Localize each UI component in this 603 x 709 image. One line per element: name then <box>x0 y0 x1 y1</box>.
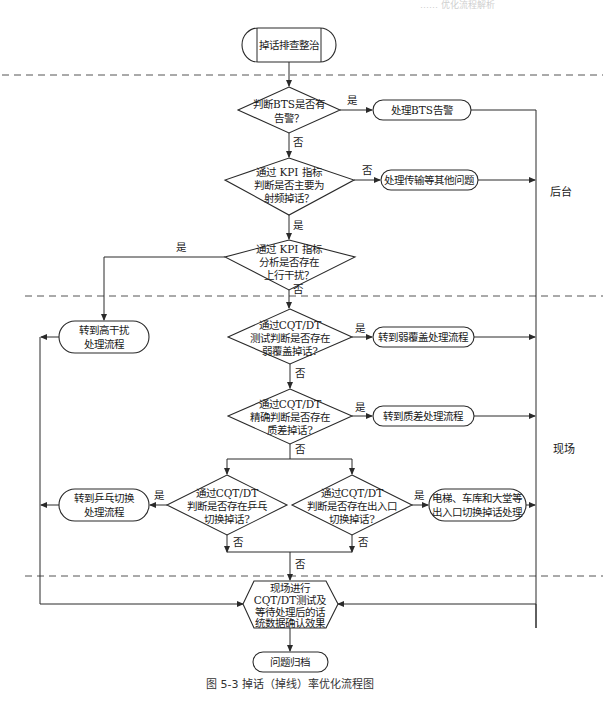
decision-kpi-ul-line1: 通过 KPI 指标 <box>256 243 323 255</box>
process-transport-label: 处理传输等其他问题 <box>384 174 475 186</box>
edge-label-no: 否 <box>362 164 373 176</box>
edge-label-no: 否 <box>295 443 306 455</box>
process-pingpong-handover: 转到乒乓切换 处理流程 <box>59 489 149 521</box>
start-node: 掉话排查整治 <box>242 28 336 62</box>
decision-entrance-line2: 判断是否存在出入口 <box>307 500 397 512</box>
edge-label-yes: 是 <box>154 489 165 501</box>
verify-line2: CQT/DT测试及 <box>254 594 328 606</box>
zone-label-backend: 后台 <box>550 185 572 199</box>
edge-label-no: 否 <box>295 558 306 570</box>
page-header-faint: …… 优化流程解析 <box>420 0 495 10</box>
start-label: 掉话排查整治 <box>259 39 319 51</box>
decision-kpi-rf-line1: 通过 KPI 指标 <box>256 166 323 178</box>
process-bts-alarm: 处理BTS告警 <box>373 100 471 120</box>
decision-pingpong-line2: 判断是否存在乒乓 <box>187 500 267 512</box>
process-high-interf-line1: 转到高干扰 <box>79 324 130 336</box>
decision-quality-line3: 质差掉话? <box>267 424 313 436</box>
edge-label-no: 否 <box>293 136 304 148</box>
decision-entrance-line1: 通过CQT/DT <box>321 487 384 499</box>
figure-caption: 图 5-3 掉话（掉线）率优化流程图 <box>206 677 374 691</box>
edge-label-no: 否 <box>358 536 369 548</box>
process-high-interference: 转到高干扰 处理流程 <box>59 321 149 353</box>
decision-kpi-uplink-interference: 通过 KPI 指标 分析是否存在 上行干扰？ <box>225 240 355 290</box>
decision-weak-cov-line1: 通过CQT/DT <box>259 319 322 331</box>
decision-entrance-line3: 切换掉话? <box>329 513 375 525</box>
decision-pingpong-line1: 通过CQT/DT <box>196 487 259 499</box>
decision-weak-cov-line2: 测试判断是否存在 <box>250 332 330 344</box>
zone-label-field: 现场 <box>553 442 575 456</box>
edge-label-no: 否 <box>233 536 244 548</box>
decision-entrance-handover: 通过CQT/DT 判断是否存在出入口 切换掉话? <box>292 475 412 535</box>
process-poor-quality: 转到质差处理流程 <box>373 406 474 426</box>
verify-line1: 现场进行 <box>270 582 311 594</box>
process-pingpong-line2: 处理流程 <box>84 506 125 518</box>
decision-pingpong-handover: 通过CQT/DT 判断是否存在乒乓 切换掉话? <box>167 475 287 535</box>
edge-label-yes: 是 <box>176 241 187 253</box>
process-field-verification: 现场进行 CQT/DT测试及 等待处理后的话 统数据确认效果 <box>243 581 338 629</box>
process-entrance-line1: 电梯、车库和大堂等 <box>432 492 523 504</box>
edge-label-yes: 是 <box>355 322 366 334</box>
process-weak-coverage: 转到弱覆盖处理流程 <box>373 327 474 347</box>
decision-bts-alarm: 判断BTS是否有 告警？ <box>238 87 340 133</box>
edge-label-no: 否 <box>293 283 304 295</box>
decision-kpi-ul-line3: 上行干扰？ <box>264 269 314 281</box>
edge-label-yes: 是 <box>414 489 425 501</box>
decision-kpi-rf-drop: 通过 KPI 指标 判断是否主要为 射频掉话？ <box>225 158 354 215</box>
flowchart-canvas: …… 优化流程解析 后台 现场 掉话排查整治 判断BTS是否有 告警？ 是 处理… <box>0 0 603 709</box>
edge-label-yes: 是 <box>355 401 366 413</box>
decision-kpi-rf-line3: 射频掉话？ <box>264 192 314 204</box>
end-node: 问题归档 <box>253 652 328 672</box>
decision-poor-quality: 通过CQT/DT 精确判断是否存在 质差掉话? <box>228 389 352 444</box>
decision-quality-line1: 通过CQT/DT <box>259 398 322 410</box>
verify-line4: 统数据确认效果 <box>255 617 326 629</box>
decision-kpi-ul-line2: 分析是否存在 <box>259 256 319 268</box>
end-label: 问题归档 <box>270 656 310 668</box>
decision-quality-line2: 精确判断是否存在 <box>250 411 330 423</box>
edge-label-yes: 是 <box>293 219 304 231</box>
process-quality-label: 转到质差处理流程 <box>383 410 464 422</box>
process-weak-cov-label: 转到弱覆盖处理流程 <box>378 331 469 343</box>
process-entrance-handover: 电梯、车库和大堂等 出入口切换掉话处理 <box>429 489 526 521</box>
decision-weak-coverage: 通过CQT/DT 测试判断是否存在 弱覆盖掉话? <box>228 309 352 364</box>
process-entrance-line2: 出入口切换掉话处理 <box>432 506 523 518</box>
edge-label-no: 否 <box>295 367 306 379</box>
decision-weak-cov-line3: 弱覆盖掉话? <box>262 345 318 357</box>
decision-pingpong-line3: 切换掉话? <box>204 513 250 525</box>
decision-bts-alarm-line2: 告警？ <box>274 112 304 124</box>
process-transport-issues: 处理传输等其他问题 <box>381 170 478 190</box>
process-pingpong-line1: 转到乒乓切换 <box>74 492 135 504</box>
process-high-interf-line2: 处理流程 <box>84 338 125 350</box>
decision-bts-alarm-line1: 判断BTS是否有 <box>253 98 325 110</box>
process-bts-alarm-label: 处理BTS告警 <box>391 104 454 116</box>
decision-kpi-rf-line2: 判断是否主要为 <box>254 179 324 191</box>
edge-label-yes: 是 <box>347 94 358 106</box>
